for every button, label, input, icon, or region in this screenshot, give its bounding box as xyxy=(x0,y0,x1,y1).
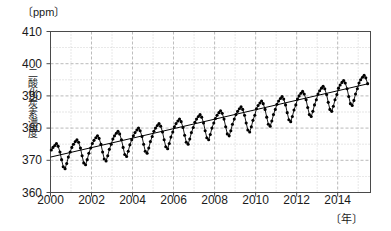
trend-line xyxy=(51,84,369,157)
axis-frame xyxy=(47,32,371,197)
data-point-markers xyxy=(50,74,369,170)
co2-concentration-chart: 〔ppm〕 二酸化炭素濃度 410 400 390 380 370 360 20… xyxy=(0,0,391,231)
gridlines xyxy=(51,32,371,193)
plot-canvas xyxy=(0,0,391,231)
data-series-line xyxy=(51,75,367,168)
